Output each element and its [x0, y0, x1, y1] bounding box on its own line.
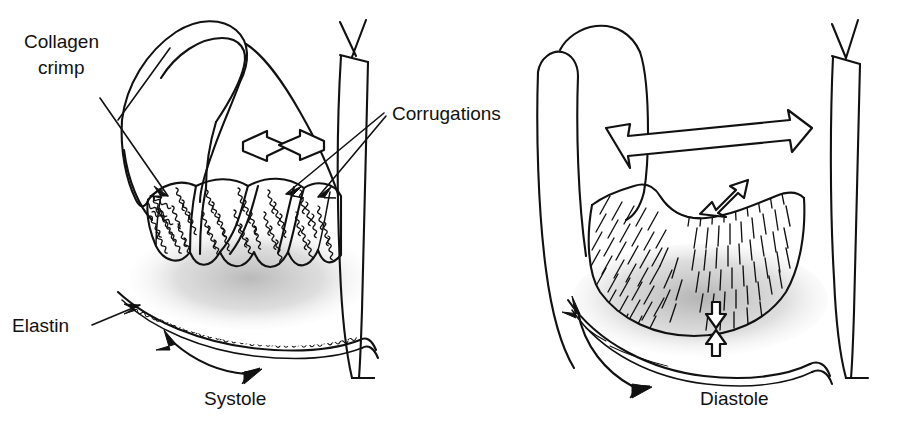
systole-shading [130, 226, 370, 330]
expansion-arrow [606, 110, 812, 168]
collagen-crimp-leader [100, 48, 170, 198]
radial-stretch-arrow [700, 180, 748, 217]
label-collagen-crimp-line2: crimp [38, 57, 84, 78]
label-elastin: Elastin [12, 315, 69, 336]
caption-systole: Systole [204, 388, 266, 409]
valve-architecture-figure: Collagen crimp Elastin Systole [0, 0, 908, 440]
aortic-wall-systole [338, 20, 374, 378]
elastin-leader [92, 304, 140, 325]
panel-diastole: Corrugations Diastole [392, 20, 868, 409]
leaflet-outline-systole [122, 21, 338, 220]
corrugations-leader-b [318, 116, 386, 198]
panel-systole: Collagen crimp Elastin Systole [12, 20, 386, 409]
label-collagen-crimp-line1: Collagen [24, 31, 99, 52]
aortic-wall-diastole [831, 20, 868, 378]
caption-diastole: Diastole [700, 388, 769, 409]
label-corrugations: Corrugations [392, 103, 501, 124]
compression-arrow [243, 130, 324, 161]
